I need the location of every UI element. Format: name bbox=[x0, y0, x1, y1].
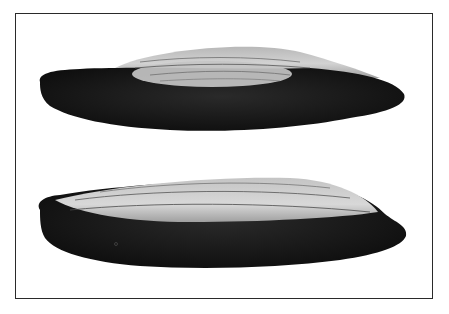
upper-specimen bbox=[40, 47, 405, 131]
lower-specimen bbox=[39, 178, 407, 268]
specimens-illustration bbox=[0, 0, 449, 314]
